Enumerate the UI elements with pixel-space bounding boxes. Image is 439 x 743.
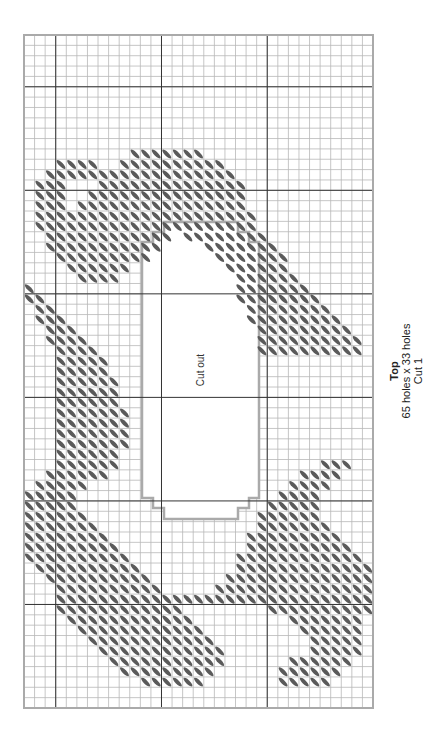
cutout-label: Cut out [195, 354, 206, 386]
pattern-caption: Top 65 holes x 33 holes Cut 1 [388, 324, 424, 419]
pattern-size: 65 holes x 33 holes [400, 324, 412, 419]
pattern-title: Top [388, 324, 400, 419]
pattern-cut-count: Cut 1 [412, 324, 424, 419]
plastic-canvas-chart [0, 0, 439, 743]
